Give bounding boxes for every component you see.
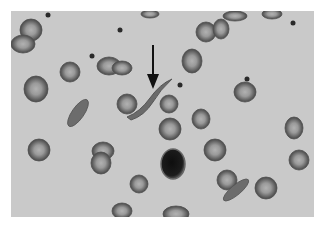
red-blood-cell (262, 11, 282, 19)
red-blood-cell (182, 49, 202, 73)
red-blood-cell (223, 11, 247, 21)
blood-smear-scene (11, 11, 314, 217)
nucleated-cell (161, 149, 185, 179)
red-blood-cell (159, 118, 181, 140)
red-blood-cell (204, 139, 226, 161)
red-blood-cell (255, 177, 277, 199)
red-blood-cell (289, 150, 309, 170)
platelet (291, 21, 296, 26)
platelet (46, 13, 51, 18)
red-blood-cell (285, 117, 303, 139)
red-blood-cell (112, 61, 132, 75)
platelet (245, 77, 250, 82)
red-blood-cell (234, 82, 256, 102)
red-blood-cell (141, 11, 159, 18)
red-blood-cell (213, 19, 229, 39)
red-blood-cell (112, 203, 132, 217)
platelet (118, 28, 123, 33)
micrograph-image: Blood smear micrograph showing red blood… (11, 11, 314, 217)
red-blood-cell (130, 175, 148, 193)
red-blood-cell (117, 94, 137, 114)
platelet (178, 83, 183, 88)
red-blood-cell (28, 139, 50, 161)
red-blood-cell (11, 35, 35, 53)
red-blood-cell (60, 62, 80, 82)
red-blood-cell (192, 109, 210, 129)
red-blood-cell (91, 152, 111, 174)
platelet (90, 54, 95, 59)
nucleated-cell-body (161, 149, 185, 179)
red-blood-cell (24, 76, 48, 102)
red-blood-cell (160, 95, 178, 113)
